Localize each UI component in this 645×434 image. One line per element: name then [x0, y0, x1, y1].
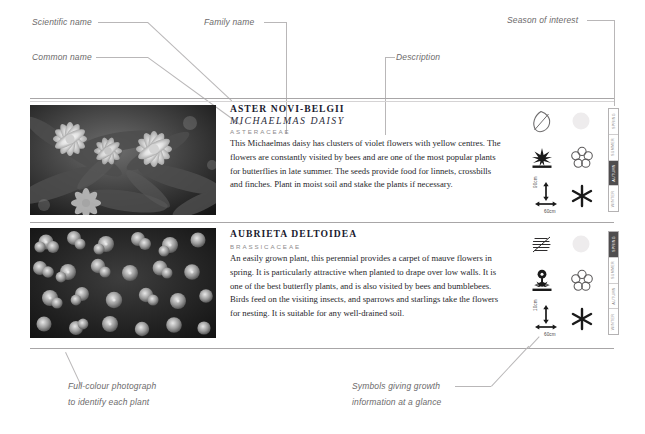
season-cell-spring: SPRING [609, 232, 618, 258]
season-label: WINTER [612, 313, 616, 329]
height-spread-icon: 10cm 60cm [534, 305, 558, 337]
description-0: This Michaelmas daisy has clusters of vi… [230, 137, 505, 192]
entry-divider-mid [30, 222, 614, 223]
flower-icon [570, 269, 594, 297]
leader-season-v [614, 20, 615, 106]
leader-season-h [587, 20, 614, 21]
callout-photo-note-line1: Full-colour photograph [68, 378, 156, 394]
shrub-silhouette-icon [530, 146, 554, 174]
plant-text-0: ASTER NOVI-BELGII MICHAELMAS DAISY ASTER… [230, 103, 505, 192]
season-label: SPRING [612, 236, 616, 252]
common-name-0: MICHAELMAS DAISY [230, 115, 505, 126]
season-label: WINTER [612, 190, 616, 206]
callout-photo-note-line2: to identify each plant [68, 394, 149, 410]
photo-art-michaelmas-daisy [30, 105, 216, 215]
season-label: SPRING [612, 113, 616, 129]
photo-art-aubrieta [30, 228, 216, 338]
symbol-row-leaf-sun-1 [524, 233, 604, 269]
season-cell-autumn: AUTUMN [609, 161, 618, 187]
height-spread-icon: 90cm 60cm [534, 182, 558, 214]
season-cell-summer: SUMMER [609, 258, 618, 284]
leaf-hatched-icon [530, 233, 554, 261]
season-cell-winter: WINTER [609, 186, 618, 211]
leader-symbols-note-h [455, 386, 491, 387]
family-name-1: BRASSICACEAE [230, 243, 505, 250]
sun-icon [570, 110, 592, 138]
season-label: SUMMER [612, 261, 616, 279]
star-icon [570, 184, 594, 212]
leader-scientific-name-diag [147, 22, 232, 101]
leaf-outline-icon [530, 110, 552, 138]
callout-symbols-note-line2: information at a glance [352, 394, 441, 410]
symbol-grid-0: 90cm 60cm [524, 110, 604, 218]
symbol-row-dimensions-star-0: 90cm 60cm [524, 182, 604, 218]
spread-label-0: 60cm [544, 209, 556, 214]
entry-divider-top-thin [30, 101, 614, 102]
leader-description-h [385, 57, 395, 58]
height-label-0: 90cm [533, 176, 538, 188]
callout-common-name: Common name [32, 49, 92, 65]
plant-photo-0 [30, 105, 216, 215]
season-strip-0: SPRINGSUMMERAUTUMNWINTER [608, 108, 619, 212]
season-cell-summer: SUMMER [609, 135, 618, 161]
sun-icon [570, 233, 592, 261]
season-strip-1: SPRINGSUMMERAUTUMNWINTER [608, 231, 619, 335]
season-label: SUMMER [612, 138, 616, 156]
symbol-row-dimensions-star-1: 10cm 60cm [524, 305, 604, 341]
star-icon [570, 307, 594, 335]
symbol-grid-1: 10cm 60cm [524, 233, 604, 341]
callout-family-name: Family name [204, 14, 254, 30]
entry-divider-top [30, 98, 614, 99]
height-label-1: 10cm [533, 299, 538, 311]
scientific-name-0: ASTER NOVI-BELGII [230, 103, 505, 114]
flower-icon [570, 146, 594, 174]
callout-season-of-interest: Season of interest [507, 12, 578, 28]
plant-guide-annotated-page: Scientific name Common name Family name … [0, 0, 645, 434]
family-name-0: ASTERACEAE [230, 128, 505, 135]
leader-family-name-h [264, 22, 286, 23]
season-cell-winter: WINTER [609, 309, 618, 334]
leader-scientific-name-h [98, 22, 148, 23]
description-1: An easily grown plant, this perennial pr… [230, 252, 505, 321]
flowering-plant-silhouette-icon [530, 269, 554, 299]
callout-description: Description [396, 49, 440, 65]
spread-label-1: 60cm [544, 332, 556, 337]
callout-scientific-name: Scientific name [32, 14, 92, 30]
season-cell-spring: SPRING [609, 109, 618, 135]
scientific-name-1: AUBRIETA DELTOIDEA [230, 228, 505, 239]
callout-symbols-note-line1: Symbols giving growth [352, 378, 440, 394]
season-label: AUTUMN [612, 164, 616, 181]
leader-symbols-note-diag [491, 346, 529, 387]
symbol-row-leaf-sun-0 [524, 110, 604, 146]
season-cell-autumn: AUTUMN [609, 284, 618, 310]
season-label: AUTUMN [612, 287, 616, 304]
leader-common-name-h [96, 57, 148, 58]
plant-photo-1 [30, 228, 216, 338]
plant-text-1: AUBRIETA DELTOIDEA BRASSICACEAE An easil… [230, 228, 505, 321]
